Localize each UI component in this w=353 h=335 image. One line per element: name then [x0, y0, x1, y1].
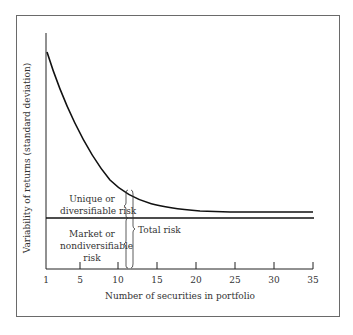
x-tick-label: 5: [77, 275, 83, 285]
x-tick-label: 25: [229, 275, 240, 285]
unique-risk-label-line1: Unique or: [60, 193, 124, 205]
market-risk-label-line3: risk: [60, 252, 124, 264]
market-risk-label-line2: nondiversifiable: [60, 240, 124, 252]
unique-risk-label-line2: diversifiable risk: [60, 205, 124, 217]
x-tick-label: 20: [190, 275, 201, 285]
total-risk-brace: [131, 190, 135, 268]
x-tick-label: 30: [268, 275, 279, 285]
total-risk-curve: [47, 52, 313, 212]
total-risk-label: Total risk: [138, 224, 181, 236]
unique-risk-label: Unique or diversifiable risk: [60, 193, 124, 217]
chart-plot: [0, 0, 353, 335]
y-axis-label: Variability of returns (standard deviati…: [22, 63, 32, 253]
x-tick-label: 10: [112, 275, 123, 285]
market-risk-label-line1: Market or: [60, 228, 124, 240]
x-tick-label: 35: [307, 275, 318, 285]
x-axis-label: Number of securities in portfolio: [105, 291, 255, 301]
x-tick-label: 1: [43, 275, 49, 285]
market-risk-label: Market or nondiversifiable risk: [60, 228, 124, 264]
x-tick-label: 15: [151, 275, 162, 285]
